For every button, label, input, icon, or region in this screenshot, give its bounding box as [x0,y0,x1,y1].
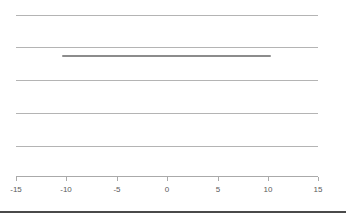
x-axis-tick-label: 10 [248,184,288,195]
data-series-line [62,55,271,57]
gridline [16,113,318,114]
bottom-border [0,211,346,213]
x-axis-tick-label: 5 [198,184,238,195]
gridline [16,15,318,16]
x-axis-tick-label: 0 [147,184,187,195]
x-axis-tick-label: -5 [97,184,137,195]
x-axis-tick-label: -10 [46,184,86,195]
x-axis-tick [218,177,219,181]
x-axis-tick-label: 15 [298,184,338,195]
x-axis-tick [167,177,168,181]
x-axis: -15 -10 -5 0 5 10 15 [0,176,346,213]
x-axis-tick-label: -15 [0,184,36,195]
x-axis-tick [318,177,319,181]
x-axis-tick [66,177,67,181]
gridline [16,47,318,48]
gridline [16,146,318,147]
x-axis-tick [268,177,269,181]
plot-area [0,0,346,180]
x-axis-tick [16,177,17,181]
gridline [16,80,318,81]
x-axis-tick [117,177,118,181]
chart-container: -15 -10 -5 0 5 10 15 [0,0,346,213]
